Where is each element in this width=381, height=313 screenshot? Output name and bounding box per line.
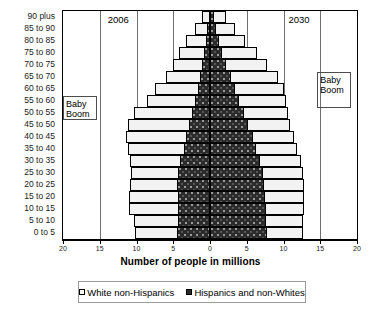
plot-area: 20062030BabyBoomBabyBoom <box>62 10 358 240</box>
x-tick-mark <box>63 240 64 244</box>
age-band-label: 45 to 50 <box>24 120 55 129</box>
bar-left-dark <box>177 179 210 191</box>
x-tick-mark <box>247 240 248 244</box>
age-band-label: 20 to 25 <box>24 180 55 189</box>
age-band-label: 85 to 90 <box>24 24 55 33</box>
pyramid-row <box>63 167 357 179</box>
legend-item-white: White non-Hispanics <box>79 287 174 298</box>
age-band-label: 40 to 45 <box>24 132 55 141</box>
pyramid-row <box>63 47 357 59</box>
legend-label-white: White non-Hispanics <box>87 287 174 298</box>
legend-swatch-dark-icon <box>186 289 192 295</box>
x-tick-label: 15 <box>316 245 324 252</box>
chart-legend: White non-Hispanics Hispanics and non-Wh… <box>78 281 306 303</box>
pyramid-row <box>63 131 357 143</box>
pyramid-row <box>63 95 357 107</box>
bar-right-dark <box>210 83 235 95</box>
baby-boom-annotation-right: BabyBoom <box>317 72 351 108</box>
pyramid-row <box>63 215 357 227</box>
legend-label-dark: Hispanics and non-Whites <box>194 287 304 298</box>
pyramid-row <box>63 203 357 215</box>
age-band-label: 35 to 40 <box>24 144 55 153</box>
age-band-label: 65 to 70 <box>24 72 55 81</box>
age-band-label: 25 to 30 <box>24 168 55 177</box>
bar-right-dark <box>210 143 256 155</box>
bar-left-dark <box>178 203 210 215</box>
bar-left-dark <box>178 215 210 227</box>
x-axis-title: Number of people in millions <box>0 256 381 267</box>
age-band-label: 55 to 60 <box>24 96 55 105</box>
legend-item-dark: Hispanics and non-Whites <box>186 287 304 298</box>
x-tick-label: 20 <box>59 245 67 252</box>
age-band-label-column: 90 plus85 to 9080 to 8575 to 8070 to 756… <box>0 10 58 240</box>
age-band-label: 30 to 35 <box>24 156 55 165</box>
population-pyramid-chart: 90 plus85 to 9080 to 8575 to 8070 to 756… <box>0 0 381 313</box>
x-tick-mark <box>320 240 321 244</box>
bar-right-dark <box>210 23 216 35</box>
pyramid-row <box>63 107 357 119</box>
pyramid-row <box>63 59 357 71</box>
bar-right-dark <box>210 179 264 191</box>
bar-right-dark <box>210 95 239 107</box>
year-label-2030: 2030 <box>286 14 311 26</box>
x-tick-label: 0 <box>208 245 212 252</box>
bar-right-dark <box>210 59 226 71</box>
bar-left-dark <box>178 167 210 179</box>
age-band-label: 60 to 65 <box>24 84 55 93</box>
pyramid-row <box>63 227 357 239</box>
age-band-label: 90 plus <box>28 12 55 21</box>
legend-swatch-white-icon <box>79 289 85 295</box>
bar-right-dark <box>210 155 260 167</box>
pyramid-row <box>63 71 357 83</box>
x-tick-mark <box>173 240 174 244</box>
x-tick-mark <box>284 240 285 244</box>
bar-right-dark <box>210 191 265 203</box>
bar-right-dark <box>210 131 253 143</box>
bar-left-dark <box>202 59 210 71</box>
bar-left-dark <box>184 143 210 155</box>
age-band-label: 0 to 5 <box>34 228 55 237</box>
age-band-label: 50 to 55 <box>24 108 55 117</box>
bar-right-dark <box>210 227 267 239</box>
age-band-label: 70 to 75 <box>24 60 55 69</box>
x-tick-label: 10 <box>280 245 288 252</box>
age-band-label: 15 to 20 <box>24 192 55 201</box>
baby-boom-annotation-left: BabyBoom <box>63 96 97 120</box>
pyramid-row <box>63 143 357 155</box>
pyramid-row <box>63 35 357 47</box>
age-band-label: 5 to 10 <box>29 216 55 225</box>
bar-left-dark <box>200 71 210 83</box>
bar-left-dark <box>186 131 210 143</box>
x-tick-label: 15 <box>96 245 104 252</box>
pyramid-row <box>63 83 357 95</box>
bar-right-dark <box>210 11 214 23</box>
pyramid-row <box>63 191 357 203</box>
bar-left-dark <box>180 155 210 167</box>
bar-left-dark <box>178 191 210 203</box>
bar-right-dark <box>210 47 222 59</box>
x-tick-mark <box>137 240 138 244</box>
x-tick-mark <box>357 240 358 244</box>
bar-right-dark <box>210 119 248 131</box>
bar-left-dark <box>198 83 210 95</box>
x-tick-label: 10 <box>133 245 141 252</box>
age-band-label: 75 to 80 <box>24 48 55 57</box>
bar-left-dark <box>192 107 210 119</box>
bar-left-dark <box>189 119 210 131</box>
pyramid-row <box>63 119 357 131</box>
pyramid-row <box>63 179 357 191</box>
bar-rows <box>63 11 357 239</box>
x-tick-label: 5 <box>245 245 249 252</box>
age-band-label: 80 to 85 <box>24 36 55 45</box>
bar-right-dark <box>210 71 231 83</box>
bar-left-dark <box>177 227 210 239</box>
age-band-label: 10 to 15 <box>24 204 55 213</box>
pyramid-row <box>63 155 357 167</box>
x-tick-mark <box>210 240 211 244</box>
bar-right-dark <box>210 203 266 215</box>
x-tick-label: 5 <box>171 245 175 252</box>
bar-right-dark <box>210 167 263 179</box>
bar-left-dark <box>195 95 210 107</box>
x-tick-mark <box>100 240 101 244</box>
bar-right-dark <box>210 215 266 227</box>
